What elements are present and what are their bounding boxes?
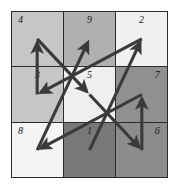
grid-cell-5: 5 (64, 67, 115, 121)
magic-square-figure: 4 9 2 3 5 7 8 1 6 (0, 0, 177, 186)
cell-label-8: 8 (18, 125, 23, 137)
grid-wrapper: 4 9 2 3 5 7 8 1 6 (11, 11, 168, 178)
grid-cell-1: 1 (64, 123, 115, 177)
grid-cell-3: 3 (12, 67, 63, 121)
grid-cell-9: 9 (64, 12, 115, 66)
cell-label-3: 3 (35, 69, 40, 81)
magic-square-grid: 4 9 2 3 5 7 8 1 6 (11, 11, 168, 178)
cell-label-1: 1 (87, 125, 92, 137)
cell-label-7: 7 (155, 69, 160, 81)
grid-cell-6: 6 (116, 123, 167, 177)
cell-label-4: 4 (18, 14, 23, 26)
cell-label-5: 5 (87, 69, 92, 81)
grid-cell-4: 4 (12, 12, 63, 66)
cell-label-9: 9 (87, 14, 92, 26)
grid-cell-8: 8 (12, 123, 63, 177)
grid-cell-7: 7 (116, 67, 167, 121)
cell-label-6: 6 (155, 125, 160, 137)
cell-label-2: 2 (139, 14, 144, 26)
grid-cell-2: 2 (116, 12, 167, 66)
